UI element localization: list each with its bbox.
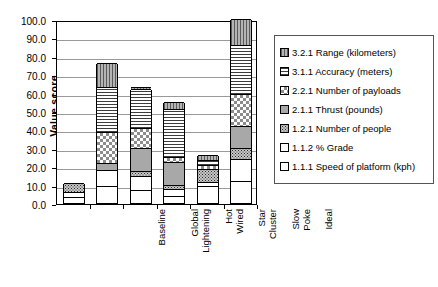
x-axis-tick-mark bbox=[157, 205, 158, 209]
legend-label: 2.2.1 Number of payloads bbox=[292, 85, 401, 96]
x-axis-tick-label: Hot Wired bbox=[224, 209, 245, 287]
legend-swatch bbox=[280, 143, 289, 152]
legend-item: 2.2.1 Number of payloads bbox=[280, 81, 428, 100]
legend-item: 1.2.1 Number of people bbox=[280, 119, 428, 138]
legend-swatch bbox=[280, 124, 289, 133]
y-axis-tick-mark bbox=[52, 76, 56, 77]
stacked-bar-chart: Value score 100.090.080.070.060.050.040.… bbox=[0, 0, 438, 287]
y-axis-tick-mark bbox=[52, 21, 56, 22]
legend-item: 1.1.1 Speed of platform (kph) bbox=[280, 157, 428, 176]
x-axis-tick-label: Baseline bbox=[157, 209, 168, 287]
y-axis-tick-mark bbox=[52, 187, 56, 188]
y-axis-tick-mark bbox=[52, 205, 56, 206]
y-axis-tick-mark bbox=[52, 131, 56, 132]
legend-swatch bbox=[280, 86, 289, 95]
x-axis-tick-label: Star Cluster bbox=[257, 209, 278, 287]
y-axis-tick-mark bbox=[52, 58, 56, 59]
legend-label: 3.1.1 Accuracy (meters) bbox=[292, 66, 392, 77]
x-axis-tick-mark bbox=[123, 205, 124, 209]
x-axis-tick-mark bbox=[257, 205, 258, 209]
legend-swatch bbox=[280, 162, 289, 171]
y-axis-tick-mark bbox=[52, 39, 56, 40]
x-axis-tick-label: Global Lightening bbox=[190, 209, 211, 287]
y-axis-tick-mark bbox=[52, 113, 56, 114]
y-axis-tick-mark bbox=[52, 168, 56, 169]
x-axis-tick-label: Ideal bbox=[324, 209, 335, 287]
legend-label: 3.2.1 Range (kilometers) bbox=[292, 47, 396, 58]
legend-label: 1.2.1 Number of people bbox=[292, 123, 391, 134]
x-axis-tick-mark bbox=[90, 205, 91, 209]
legend: 3.2.1 Range (kilometers)3.1.1 Accuracy (… bbox=[274, 35, 434, 184]
x-axis-tick-label: Slow Poke bbox=[291, 209, 312, 287]
legend-item: 1.1.2 % Grade bbox=[280, 138, 428, 157]
legend-swatch bbox=[280, 105, 289, 114]
legend-label: 2.1.1 Thrust (pounds) bbox=[292, 104, 383, 115]
y-axis-tick-mark bbox=[52, 150, 56, 151]
legend-label: 1.1.2 % Grade bbox=[292, 142, 353, 153]
legend-item: 2.1.1 Thrust (pounds) bbox=[280, 100, 428, 119]
x-axis-tick-mark bbox=[190, 205, 191, 209]
x-axis-tick-mark bbox=[224, 205, 225, 209]
legend-label: 1.1.1 Speed of platform (kph) bbox=[292, 161, 415, 172]
y-axis-tick-mark bbox=[52, 95, 56, 96]
legend-item: 3.1.1 Accuracy (meters) bbox=[280, 62, 428, 81]
legend-swatch bbox=[280, 67, 289, 76]
legend-item: 3.2.1 Range (kilometers) bbox=[280, 43, 428, 62]
legend-swatch bbox=[280, 48, 289, 57]
